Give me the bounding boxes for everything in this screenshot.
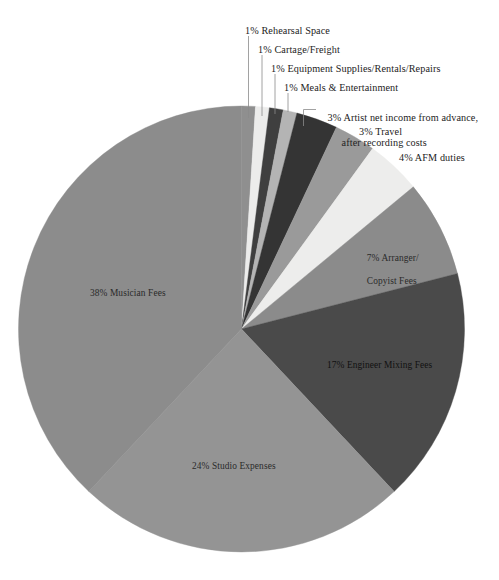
label-arranger-line1: 7% Arranger/ <box>367 253 419 263</box>
label-afm-duties: 4% AFM duties <box>399 152 465 164</box>
label-meals-entertainment: 1% Meals & Entertainment <box>284 82 398 94</box>
pie-slices-group <box>19 106 465 552</box>
label-engineer-mixing-fees: 17% Engineer Mixing Fees <box>327 360 432 372</box>
label-rehearsal-space: 1% Rehearsal Space <box>245 25 330 37</box>
pie-chart-svg <box>0 0 499 580</box>
label-artist-net-income-line2: after recording costs <box>342 137 427 149</box>
label-artist-net-income-line1: 3% Artist net income from advance, <box>328 112 479 123</box>
label-equipment-supplies: 1% Equipment Supplies/Rentals/Repairs <box>271 63 441 75</box>
label-cartage-freight: 1% Cartage/Freight <box>258 44 340 56</box>
label-arranger-line2: Copyist Fees <box>367 276 417 286</box>
label-studio-expenses: 24% Studio Expenses <box>192 461 276 473</box>
label-musician-fees: 38% Musician Fees <box>90 288 166 300</box>
label-arranger-copyist-fees: 7% Arranger/ Copyist Fees <box>357 241 419 300</box>
pie-chart-figure: 1% Rehearsal Space 1% Cartage/Freight 1%… <box>0 0 499 580</box>
label-travel: 3% Travel <box>359 126 402 138</box>
